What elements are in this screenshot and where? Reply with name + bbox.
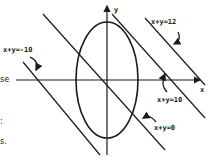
pointer-arrow-icon: [143, 117, 156, 122]
cropped-text-fragment: s.: [0, 138, 7, 146]
line-x-plus-y-12: [145, 18, 205, 85]
y-axis-label: y: [114, 6, 119, 14]
cropped-text-fragment: se: [0, 76, 9, 84]
label-x-plus-y-12: x+y=12: [151, 18, 176, 26]
pointer-arrow-icon: [163, 74, 167, 92]
pointer-arrow-icon: [30, 57, 37, 70]
line-x-plus-y-0: [43, 14, 165, 150]
label-x-plus-y-neg10: x+y=-10: [3, 46, 33, 54]
label-x-plus-y-10: x+y=10: [157, 96, 182, 104]
pointer-arrow-icon: [174, 32, 179, 44]
label-x-plus-y-0: x+y=0: [154, 124, 175, 132]
figure-canvas: x y x+y=12 x+y=10 x+y=0 x+y=-10 se : s.: [0, 0, 210, 165]
line-x-plus-y-neg10: [23, 62, 100, 155]
cropped-text-fragment: :: [0, 118, 3, 126]
x-axis-label: x: [200, 86, 205, 94]
diagram-svg: x y x+y=12 x+y=10 x+y=0 x+y=-10: [0, 0, 210, 165]
